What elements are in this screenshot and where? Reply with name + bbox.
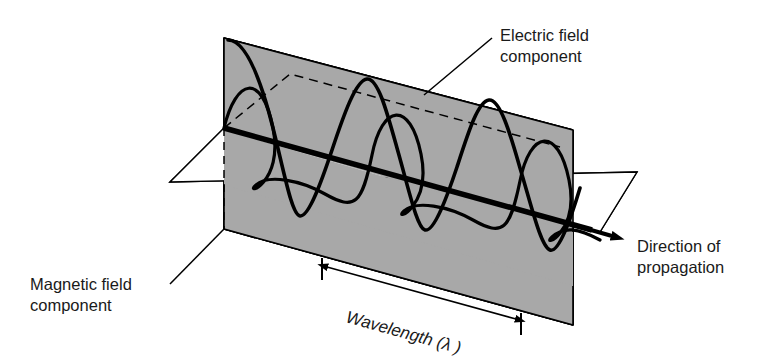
electromagnetic-wave-figure: Wavelength (λ ) Electric field component…: [0, 0, 774, 359]
direction-label-line1: Direction of: [637, 237, 721, 255]
wave-diagram-svg: Wavelength (λ ) Electric field component…: [0, 0, 774, 359]
wavelength-label: Wavelength (λ ): [344, 308, 463, 358]
magnetic-label-leader: [170, 229, 224, 284]
electric-label-leader: [424, 38, 492, 95]
electric-field-label-line2: component: [500, 47, 582, 65]
magnetic-field-label-line2: component: [30, 296, 112, 314]
magnetic-field-label-line1: Magnetic field: [30, 275, 132, 293]
electric-field-label-line1: Electric field: [500, 26, 589, 44]
direction-label-line2: propagation: [637, 258, 724, 276]
